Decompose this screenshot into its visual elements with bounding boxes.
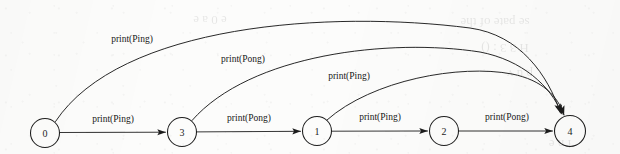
state-node-label-4: 4 — [568, 126, 573, 137]
edge-label-1-to-4: print(Ping) — [328, 71, 370, 82]
edge-label-3-to-4: print(Pong) — [221, 54, 265, 65]
state-node-label-1: 1 — [315, 126, 320, 137]
state-node-label-2: 2 — [442, 126, 447, 137]
state-node-label-3: 3 — [180, 127, 185, 138]
state-node-label-0: 0 — [43, 128, 48, 139]
edge-label-2-to-4: print(Pong) — [485, 112, 529, 123]
edge-label-0-to-3: print(Ping) — [92, 114, 134, 125]
edge-3-to-1[interactable] — [197, 131, 301, 132]
edge-label-3-to-1: print(Pong) — [227, 113, 271, 124]
edge-label-1-to-2: print(Ping) — [359, 112, 401, 123]
diagram-canvas: print(Ping)print(Pong)print(Ping)print(P… — [0, 0, 620, 154]
state-diagram-figure: se pate of theH 3 3 : ()p u ve 0 a ei n … — [0, 0, 620, 154]
edge-label-0-to-4: print(Ping) — [111, 34, 153, 45]
